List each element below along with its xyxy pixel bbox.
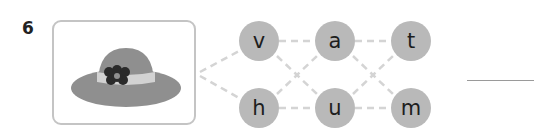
letter-node[interactable]: t bbox=[391, 21, 431, 61]
letter-node[interactable]: v bbox=[239, 21, 279, 61]
letter-node[interactable]: a bbox=[315, 21, 355, 61]
letter-node[interactable]: h bbox=[239, 88, 279, 128]
answer-line[interactable] bbox=[467, 80, 534, 81]
letter-node[interactable]: m bbox=[391, 88, 431, 128]
letter-node[interactable]: u bbox=[315, 88, 355, 128]
